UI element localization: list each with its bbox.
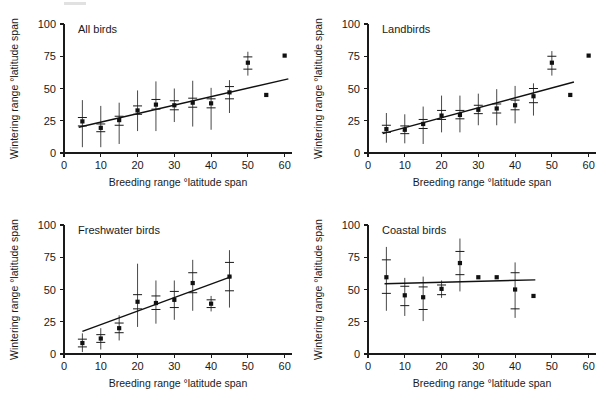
y-tick-label: 25 [348,115,360,127]
x-tick-label: 60 [583,360,595,372]
axis-frame [64,24,292,153]
data-point-marker [117,118,121,122]
x-tick-label: 10 [399,159,411,171]
x-tick-label: 30 [168,159,180,171]
regression-line [79,79,289,127]
y-axis-title: Wintering range °latitude span [8,18,20,159]
axis-frame [368,225,596,354]
chart-panel-1: 01020304050600255075100Breeding range °l… [0,0,304,201]
x-tick-label: 20 [131,360,143,372]
data-point-marker [209,302,213,306]
y-axis-title: Wintering range °latitude span [312,219,324,360]
x-tick-label: 40 [205,360,217,372]
chart-panel-2: 01020304050600255075100Breeding range °l… [304,0,608,201]
panel-title: Coastal birds [382,224,447,236]
x-tick-label: 60 [583,159,595,171]
data-point-marker [403,128,407,132]
y-tick-label: 0 [50,348,56,360]
x-tick-label: 50 [546,360,558,372]
y-tick-label: 50 [348,83,360,95]
x-tick-label: 10 [95,159,107,171]
y-tick-label: 50 [348,284,360,296]
data-point-marker [172,298,176,302]
data-point-marker [80,119,84,123]
y-tick-label: 50 [44,83,56,95]
y-tick-label: 75 [348,50,360,62]
x-tick-label: 0 [61,159,67,171]
panel-title: Landbirds [382,23,431,35]
data-point-marker [191,281,195,285]
y-tick-label: 100 [342,219,360,231]
data-point-marker [135,300,139,304]
y-tick-label: 100 [38,219,56,231]
y-tick-label: 0 [50,147,56,159]
x-axis-title: Breeding range °latitude span [413,377,552,389]
data-point-marker [458,261,462,265]
data-point-marker [439,287,443,291]
data-point-marker [513,287,517,291]
data-point-marker [384,127,388,131]
x-tick-label: 20 [435,159,447,171]
x-tick-label: 40 [509,360,521,372]
data-point-marker [172,103,176,107]
x-tick-label: 40 [509,159,521,171]
data-point-marker [458,113,462,117]
x-tick-label: 10 [95,360,107,372]
x-tick-label: 50 [242,159,254,171]
x-tick-label: 50 [546,159,558,171]
data-point-marker [99,126,103,130]
y-tick-label: 25 [44,115,56,127]
x-tick-label: 0 [365,360,371,372]
chart-panel-4: 01020304050600255075100Breeding range °l… [304,201,608,402]
data-point-marker [587,54,591,58]
data-point-marker [264,93,268,97]
x-tick-label: 20 [435,360,447,372]
data-point-marker [439,113,443,117]
y-tick-label: 50 [44,284,56,296]
x-tick-label: 60 [279,159,291,171]
data-point-marker [154,103,158,107]
data-point-marker [246,61,250,65]
y-tick-label: 100 [342,18,360,30]
data-point-marker [384,275,388,279]
y-tick-label: 75 [44,251,56,263]
x-tick-label: 30 [168,360,180,372]
data-point-marker [227,275,231,279]
panel-title: All birds [78,23,118,35]
data-point-marker [283,54,287,58]
data-point-marker [421,122,425,126]
data-point-marker [513,103,517,107]
x-tick-label: 0 [61,360,67,372]
panel-title: Freshwater birds [78,224,160,236]
data-point-marker [476,275,480,279]
data-point-marker [154,301,158,305]
x-tick-label: 60 [279,360,291,372]
data-point-marker [550,61,554,65]
data-point-marker [80,341,84,345]
data-point-marker [421,295,425,299]
data-point-marker [531,94,535,98]
x-tick-label: 40 [205,159,217,171]
y-axis-title: Wintering range °latitude span [312,18,324,159]
y-tick-label: 100 [38,18,56,30]
x-axis-title: Breeding range °latitude span [413,176,552,188]
chart-panel-3: 01020304050600255075100Breeding range °l… [0,201,304,402]
y-axis-title: Wintering range °latitude span [8,219,20,360]
data-point-marker [495,275,499,279]
y-tick-label: 75 [348,251,360,263]
figure-panel-grid: 01020304050600255075100Breeding range °l… [0,0,608,402]
data-point-marker [476,108,480,112]
data-point-marker [191,101,195,105]
y-tick-label: 0 [354,348,360,360]
x-axis-title: Breeding range °latitude span [109,377,248,389]
data-point-marker [495,106,499,110]
y-tick-label: 0 [354,147,360,159]
x-tick-label: 0 [365,159,371,171]
y-tick-label: 25 [44,316,56,328]
x-axis-title: Breeding range °latitude span [109,176,248,188]
data-point-marker [99,336,103,340]
data-point-marker [227,90,231,94]
x-tick-label: 30 [472,159,484,171]
x-tick-label: 50 [242,360,254,372]
data-point-marker [568,93,572,97]
